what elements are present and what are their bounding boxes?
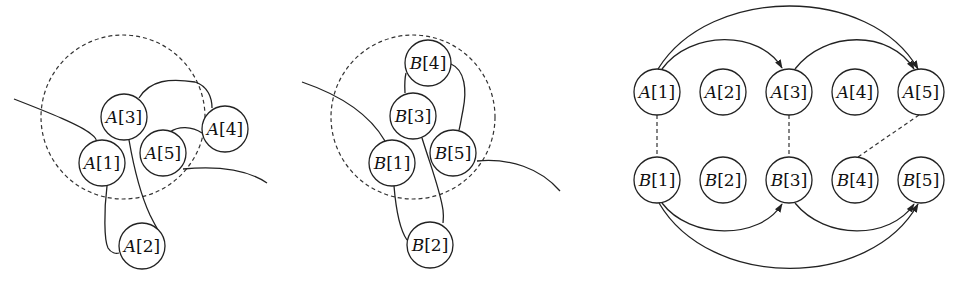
svg-text:B[3]: B[3] — [394, 106, 432, 126]
node-b2: B[2] — [407, 222, 453, 268]
svg-text:A[3]: A[3] — [104, 107, 142, 127]
panel-a: A[1] A[2] A[3] A[4] A[5] — [14, 35, 267, 269]
node-a5: A[5] — [140, 130, 186, 176]
node-map-a1: A[1] — [634, 69, 680, 115]
svg-text:A[1]: A[1] — [637, 82, 675, 102]
svg-text:B[5]: B[5] — [902, 170, 940, 190]
panel-b: B[1] B[2] B[3] B[4] B[5] — [302, 35, 560, 268]
svg-text:A[2]: A[2] — [122, 236, 160, 256]
svg-text:B[4]: B[4] — [409, 53, 447, 73]
panel-b-curve-outgoing — [477, 160, 560, 191]
svg-text:A[5]: A[5] — [143, 143, 181, 163]
svg-text:B[4]: B[4] — [836, 170, 874, 190]
panel-b-curve-b4-b3 — [405, 73, 406, 93]
panel-a-curve-a3-a4 — [139, 80, 212, 108]
svg-text:B[5]: B[5] — [434, 143, 472, 163]
diagram-svg: A[1] A[2] A[3] A[4] A[5] B[1] — [0, 0, 960, 286]
node-a2: A[2] — [119, 223, 165, 269]
arrow-a3-a5 — [795, 40, 914, 69]
arrow-b1-b3 — [662, 203, 782, 231]
panel-a-curve-outgoing — [183, 168, 267, 183]
svg-text:B[3]: B[3] — [770, 170, 808, 190]
svg-text:B[1]: B[1] — [638, 170, 676, 190]
arrow-b1-b5 — [659, 203, 918, 268]
node-map-a3: A[3] — [766, 69, 812, 115]
panel-a-curve-a5-a4 — [170, 128, 202, 133]
panel-b-curve-b4-b5 — [451, 64, 465, 130]
node-map-b5: B[5] — [898, 157, 944, 203]
correspondence-a5-b4 — [858, 115, 919, 157]
node-map-a4: A[4] — [832, 69, 878, 115]
svg-text:B[2]: B[2] — [411, 235, 449, 255]
node-a3: A[3] — [101, 94, 147, 140]
node-map-a2: A[2] — [700, 69, 746, 115]
panel-b-curve-incoming — [302, 82, 385, 141]
panel-a-curve-incoming — [14, 99, 96, 141]
panel-mapping: A[1] A[2] A[3] A[4] A[5] B[1] B[2] — [634, 6, 944, 268]
svg-text:A[4]: A[4] — [835, 82, 873, 102]
svg-text:B[1]: B[1] — [373, 153, 411, 173]
panel-a-curve-a1-a2 — [105, 186, 119, 253]
node-map-a5: A[5] — [898, 69, 944, 115]
node-b4: B[4] — [405, 40, 451, 86]
node-a1: A[1] — [79, 140, 125, 186]
node-map-b3: B[3] — [766, 157, 812, 203]
svg-text:B[2]: B[2] — [704, 170, 742, 190]
svg-text:A[1]: A[1] — [82, 153, 120, 173]
node-map-b4: B[4] — [832, 157, 878, 203]
node-b1: B[1] — [369, 140, 415, 186]
panel-b-curve-b1-b2 — [394, 186, 407, 240]
node-map-b1: B[1] — [634, 157, 680, 203]
svg-text:A[4]: A[4] — [205, 119, 243, 139]
svg-text:A[2]: A[2] — [703, 82, 741, 102]
node-b3: B[3] — [390, 93, 436, 139]
node-b5: B[5] — [430, 130, 476, 176]
arrow-a1-a3 — [662, 40, 782, 69]
arrow-b3-b5 — [795, 203, 914, 231]
diagram-canvas: A[1] A[2] A[3] A[4] A[5] B[1] — [0, 0, 960, 286]
node-a4: A[4] — [202, 106, 248, 152]
svg-text:A[5]: A[5] — [901, 82, 939, 102]
svg-text:A[3]: A[3] — [769, 82, 807, 102]
arrow-a1-a5 — [658, 6, 918, 69]
node-map-b2: B[2] — [700, 157, 746, 203]
